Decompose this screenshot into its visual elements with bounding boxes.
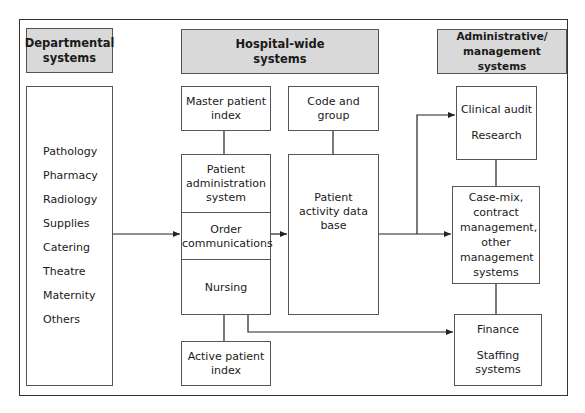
box-label: Staffing systems <box>473 349 523 377</box>
hospital-systems-stack: Patient administration system Order comm… <box>181 154 271 315</box>
list-item: Supplies <box>43 212 90 236</box>
list-item: Catering <box>43 236 90 260</box>
master-patient-index-box: Master patient index <box>181 86 271 131</box>
list-item: Others <box>43 308 80 332</box>
list-item: Maternity <box>43 284 96 308</box>
departmental-systems-header: Departmental systems <box>26 28 113 73</box>
list-item: Pharmacy <box>43 164 98 188</box>
patient-administration-system-segment: Patient administration system <box>182 155 270 212</box>
case-mix-box: Case-mix, contract management, other man… <box>452 186 540 284</box>
box-label: Research <box>471 129 521 143</box>
finance-staffing-box: Finance Staffing systems <box>454 314 542 386</box>
order-communications-segment: Order communications <box>182 212 270 260</box>
box-label: Case-mix, contract management, other man… <box>460 190 532 280</box>
box-label: Active patient index <box>186 350 266 378</box>
code-and-group-box: Code and group <box>288 86 379 131</box>
active-patient-index-box: Active patient index <box>181 341 271 386</box>
administrative-systems-header: Administrative/ management systems <box>437 29 567 74</box>
box-label: Nursing <box>205 281 247 295</box>
box-label: Code and group <box>304 95 364 123</box>
header-label: Departmental systems <box>19 36 121 66</box>
box-label: Patient activity data base <box>294 191 374 233</box>
header-label: Hospital-wide systems <box>235 37 325 67</box>
box-label: Order communications <box>182 223 270 251</box>
box-label: Clinical audit <box>461 103 532 117</box>
hospital-wide-systems-header: Hospital-wide systems <box>181 29 379 74</box>
header-label: Administrative/ management systems <box>438 29 566 74</box>
clinical-audit-box: Clinical audit Research <box>456 86 537 160</box>
list-item: Theatre <box>43 260 86 284</box>
departmental-systems-list: Pathology Pharmacy Radiology Supplies Ca… <box>26 86 113 386</box>
list-item: Pathology <box>43 140 97 164</box>
box-label: Patient administration system <box>183 163 269 205</box>
arrow-activity-to-audit <box>417 115 455 234</box>
nursing-segment: Nursing <box>182 259 270 315</box>
list-item: Radiology <box>43 188 97 212</box>
arrow-nursing-to-finance <box>248 314 453 332</box>
patient-activity-database-box: Patient activity data base <box>288 154 379 315</box>
box-label: Finance <box>477 323 519 337</box>
box-label: Master patient index <box>184 95 268 123</box>
